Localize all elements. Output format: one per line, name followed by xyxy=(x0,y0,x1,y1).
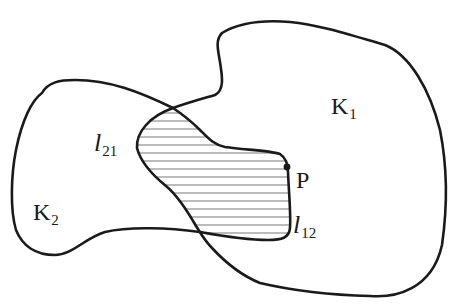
label-l12-letter: l xyxy=(293,210,300,239)
label-k1-subscript: 1 xyxy=(349,106,357,122)
label-l21-subscript: 21 xyxy=(102,143,117,159)
label-l12: l12 xyxy=(293,212,316,238)
label-point-p: P xyxy=(296,168,309,192)
diagram-canvas xyxy=(0,0,456,308)
region-k1-outline xyxy=(137,21,446,296)
label-l12-subscript: 12 xyxy=(301,225,316,241)
label-point-p-letter: P xyxy=(296,167,309,193)
label-k1-letter: K xyxy=(331,93,348,119)
region-k2-outline xyxy=(12,80,290,255)
label-l21-letter: l xyxy=(94,128,101,157)
label-k2: K2 xyxy=(33,200,59,224)
label-k2-letter: K xyxy=(33,199,50,225)
label-k2-subscript: 2 xyxy=(51,212,59,228)
label-l21: l21 xyxy=(94,130,117,156)
label-k1: K1 xyxy=(331,94,357,118)
intersection-hatching xyxy=(120,113,300,233)
point-p-dot xyxy=(284,164,291,171)
